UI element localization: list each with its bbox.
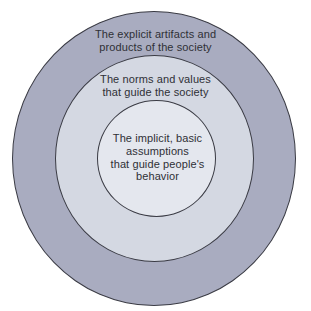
inner-label-line-4: behavior [2,170,311,183]
outer-label-line-1: The explicit artifacts and [0,28,311,41]
inner-label-line-3: that guide people's [2,158,311,171]
outer-layer-label: The explicit artifacts and products of t… [0,28,311,54]
outer-label-line-2: products of the society [0,41,311,54]
inner-label-line-2: assumptions [2,145,311,158]
inner-layer-label: The implicit, basic assumptions that gui… [2,132,311,183]
middle-label-line-1: The norms and values [0,73,311,86]
inner-label-line-1: The implicit, basic [2,132,311,145]
middle-label-line-2: that guide the society [0,86,311,99]
middle-layer-label: The norms and values that guide the soci… [0,73,311,99]
